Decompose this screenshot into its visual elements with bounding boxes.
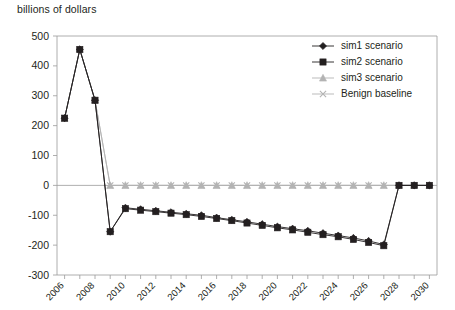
y-tick-label: 200 — [31, 119, 49, 131]
data-point-sim2-scenario — [244, 220, 250, 226]
data-point-sim2-scenario — [107, 229, 113, 235]
x-tick-label: 2018 — [226, 280, 249, 303]
legend-label-4: Benign baseline — [341, 88, 413, 99]
x-tick-label: 2022 — [286, 280, 309, 303]
x-tick-label: 2008 — [74, 280, 97, 303]
data-point-sim2-scenario — [411, 182, 417, 188]
data-point-sim2-scenario — [274, 225, 280, 231]
data-point-sim2-scenario — [229, 218, 235, 224]
y-tick-label: -300 — [28, 269, 49, 281]
legend-label-1: sim1 scenario — [341, 40, 403, 51]
y-tick-label: 500 — [31, 30, 49, 42]
data-point-sim2-scenario — [320, 232, 326, 238]
data-point-sim2-scenario — [153, 209, 159, 215]
legend-marker-2 — [320, 59, 326, 65]
y-tick-label: 400 — [31, 59, 49, 71]
series-line-sim3-scenario — [65, 49, 430, 185]
data-point-sim2-scenario — [381, 243, 387, 249]
data-point-sim2-scenario — [426, 182, 432, 188]
series-line-benign-baseline — [65, 49, 430, 185]
y-tick-label: -100 — [28, 209, 49, 221]
data-point-sim2-scenario — [259, 222, 265, 228]
x-tick-label: 2006 — [43, 280, 66, 303]
x-tick-label: 2030 — [408, 280, 431, 303]
data-point-sim2-scenario — [214, 215, 220, 221]
y-tick-label: 300 — [31, 89, 49, 101]
data-point-sim2-scenario — [198, 213, 204, 219]
data-point-sim2-scenario — [122, 206, 128, 212]
y-tick-label: 100 — [31, 149, 49, 161]
x-tick-label: 2012 — [134, 280, 157, 303]
data-point-sim2-scenario — [183, 212, 189, 218]
legend-label-3: sim3 scenario — [341, 72, 403, 83]
x-tick-label: 2010 — [104, 280, 127, 303]
data-point-sim2-scenario — [335, 234, 341, 240]
line-chart-plot: -300-200-1000100200300400500200620082010… — [0, 0, 455, 310]
y-tick-label: 0 — [43, 179, 49, 191]
legend-label-2: sim2 scenario — [341, 56, 403, 67]
data-point-sim2-scenario — [396, 182, 402, 188]
x-tick-label: 2020 — [256, 280, 279, 303]
x-tick-label: 2028 — [378, 280, 401, 303]
chart-container: billions of dollars -300-200-10001002003… — [0, 0, 455, 310]
data-point-sim2-scenario — [290, 227, 296, 233]
x-tick-label: 2014 — [165, 280, 188, 303]
data-point-sim2-scenario — [138, 207, 144, 213]
x-tick-label: 2016 — [195, 280, 218, 303]
data-point-sim2-scenario — [366, 239, 372, 245]
data-point-sim2-scenario — [92, 97, 98, 103]
data-point-sim2-scenario — [62, 115, 68, 121]
data-point-sim2-scenario — [168, 210, 174, 216]
data-point-sim2-scenario — [77, 46, 83, 52]
data-point-sim2-scenario — [350, 236, 356, 242]
y-tick-label: -200 — [28, 239, 49, 251]
legend-marker-1 — [319, 42, 326, 49]
data-point-sim2-scenario — [305, 229, 311, 235]
x-tick-label: 2026 — [347, 280, 370, 303]
x-tick-label: 2024 — [317, 280, 340, 303]
